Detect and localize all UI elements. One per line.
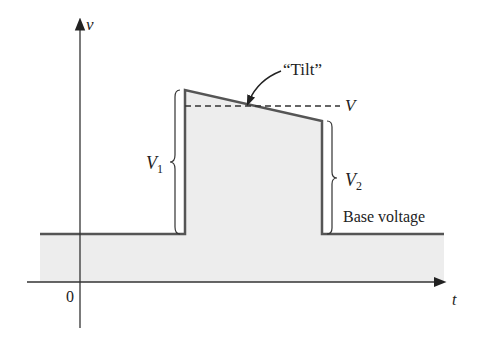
shaded-region — [40, 90, 444, 282]
v1-label: V1 — [146, 153, 163, 176]
tilt-label: “Tilt” — [283, 60, 322, 79]
y-axis-label: v — [86, 15, 94, 34]
tilt-arrow — [249, 71, 281, 101]
v1-brace — [170, 90, 180, 234]
x-axis-label: t — [452, 291, 457, 308]
v2-brace — [327, 121, 337, 234]
average-voltage-label: V — [345, 96, 358, 115]
base-voltage-label: Base voltage — [343, 208, 425, 226]
pulse-diagram: v t 0 “Tilt” V V1 V2 Base voltage — [0, 0, 481, 344]
origin-label: 0 — [66, 288, 74, 305]
v2-label: V2 — [345, 170, 362, 193]
